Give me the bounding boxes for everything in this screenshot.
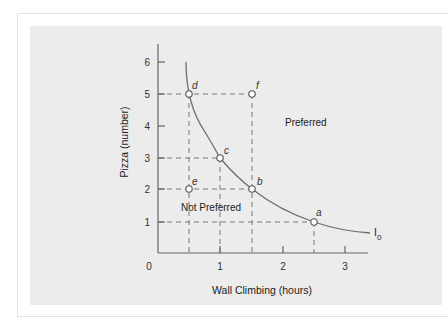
point-f: [249, 91, 255, 97]
point-label-b: b: [257, 176, 263, 187]
point-label-f: f: [256, 80, 260, 91]
svg-text:5: 5: [144, 89, 150, 100]
point-label-c: c: [224, 145, 229, 156]
preferred-label: Preferred: [285, 117, 327, 128]
svg-text:0: 0: [146, 261, 152, 272]
point-b: [249, 186, 255, 192]
svg-text:3: 3: [342, 261, 348, 272]
x-tick-labels: 0 1 2 3: [146, 261, 348, 272]
svg-text:2: 2: [280, 261, 286, 272]
x-axis-title: Wall Climbing (hours): [212, 284, 312, 296]
svg-text:1: 1: [217, 261, 223, 272]
y-tick-labels: 6 5 4 3 2 1: [144, 57, 150, 228]
svg-text:3: 3: [144, 153, 150, 164]
svg-text:4: 4: [144, 121, 150, 132]
y-axis-title: Pizza (number): [118, 106, 130, 177]
point-label-a: a: [316, 207, 322, 218]
point-label-d: d: [192, 80, 198, 91]
point-c: [217, 155, 223, 161]
svg-text:1: 1: [144, 217, 150, 228]
not-preferred-label: Not Preferred: [181, 202, 241, 213]
curve-label: I0: [374, 226, 382, 242]
svg-text:6: 6: [144, 57, 150, 68]
point-d: [186, 91, 192, 97]
point-a: [311, 219, 317, 225]
point-label-e: e: [192, 176, 198, 187]
svg-text:2: 2: [144, 184, 150, 195]
